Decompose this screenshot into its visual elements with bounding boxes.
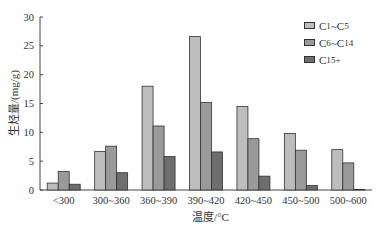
bar xyxy=(142,86,153,190)
bar xyxy=(190,37,201,190)
bar xyxy=(201,102,212,190)
y-tick-label: 25 xyxy=(24,40,35,51)
bar xyxy=(332,150,343,190)
legend-item-c15-plus: C15+ xyxy=(304,51,353,68)
x-tick-label: 300~360 xyxy=(93,195,130,206)
y-axis-label: 生烃量/(mg/g) xyxy=(5,70,21,136)
bar xyxy=(237,106,248,190)
legend-item-c1-c5: C1~C5 xyxy=(304,17,353,34)
y-tick-label: 30 xyxy=(24,12,35,23)
x-tick-label: 360~390 xyxy=(140,195,177,206)
y-tick-label: 10 xyxy=(24,127,35,138)
legend-swatch xyxy=(304,56,315,63)
bar xyxy=(47,183,58,190)
legend-swatch xyxy=(304,22,315,29)
x-tick-label: 390~420 xyxy=(187,195,224,206)
y-tick-label: 15 xyxy=(24,98,35,109)
x-tick-label: 500~600 xyxy=(330,195,367,206)
bar xyxy=(164,157,175,190)
x-tick-label: 420~450 xyxy=(235,195,272,206)
x-axis-label: 温度/°C xyxy=(0,208,381,224)
bar xyxy=(95,151,106,190)
bar xyxy=(106,146,117,190)
bar xyxy=(343,163,354,190)
legend-item-c6-c14: C6~C14 xyxy=(304,34,353,51)
bar xyxy=(354,189,365,190)
bar xyxy=(306,185,317,190)
bar xyxy=(153,126,164,190)
bar xyxy=(248,139,259,190)
bar xyxy=(117,173,128,190)
bar xyxy=(295,150,306,190)
bar xyxy=(259,176,270,190)
bar xyxy=(284,133,295,190)
y-tick-label: 20 xyxy=(24,69,35,80)
bar xyxy=(212,152,223,190)
y-tick-label: 0 xyxy=(29,185,34,196)
bar xyxy=(58,172,69,190)
legend-swatch xyxy=(304,39,315,46)
x-tick-label: <300 xyxy=(53,195,75,206)
y-tick-label: 5 xyxy=(29,156,34,167)
legend: C1~C5 C6~C14 C15+ xyxy=(304,17,353,68)
bar xyxy=(69,184,80,190)
x-tick-label: 450~500 xyxy=(282,195,319,206)
